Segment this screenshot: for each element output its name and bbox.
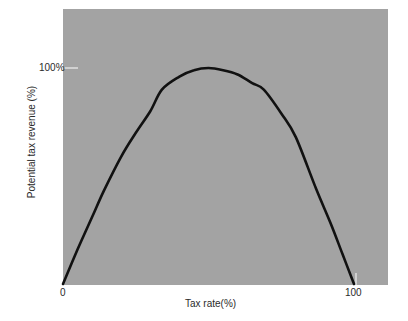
- x-axis-label: Tax rate(%): [185, 298, 236, 309]
- y-tick-label-100: 100%: [39, 62, 65, 73]
- chart-canvas: [0, 0, 408, 321]
- y-axis-label: Potential tax revenue (%): [26, 86, 37, 198]
- x-tick-label-100: 100: [345, 287, 362, 298]
- x-tick-label-0: 0: [60, 287, 66, 298]
